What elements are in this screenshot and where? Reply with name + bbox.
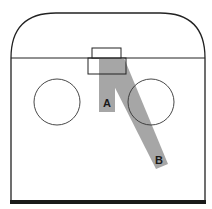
lane-a-label: A	[103, 97, 111, 109]
hockey-rink-diagram: A B	[0, 0, 212, 209]
zone-line	[10, 200, 206, 204]
goal-net	[92, 48, 121, 58]
lane-b-label: B	[155, 154, 163, 166]
